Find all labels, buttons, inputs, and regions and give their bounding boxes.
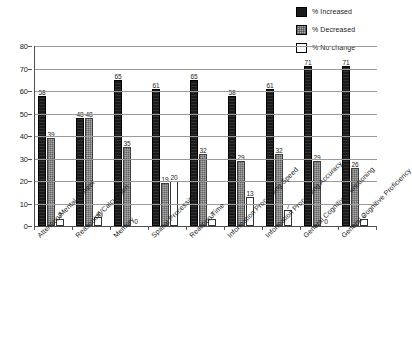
y-axis-tick bbox=[28, 46, 32, 47]
bar-value-label: 48 bbox=[76, 111, 83, 119]
y-axis-tick bbox=[28, 159, 32, 160]
legend-item-increased: % Increased bbox=[296, 4, 386, 19]
x-axis-tick bbox=[34, 226, 35, 230]
legend-swatch-decreased-icon bbox=[296, 25, 307, 35]
bar-increased: 61 bbox=[266, 89, 274, 226]
bar-value-label: 48 bbox=[85, 111, 92, 119]
y-axis-tick-label: 50 bbox=[20, 109, 28, 118]
bar-decreased: 48 bbox=[85, 118, 93, 226]
legend-swatch-increased-icon bbox=[296, 7, 307, 17]
gridline bbox=[35, 46, 377, 47]
bar-value-label: 13 bbox=[246, 190, 253, 198]
x-axis-tick bbox=[376, 226, 377, 230]
x-axis-tick bbox=[148, 226, 149, 230]
y-axis-tick-label: 20 bbox=[20, 177, 28, 186]
bar-decreased: 39 bbox=[47, 138, 55, 226]
y-axis: 01020304050607080 bbox=[0, 46, 32, 226]
y-axis-tick bbox=[28, 226, 32, 227]
gridline bbox=[35, 159, 377, 160]
legend-label-increased: % Increased bbox=[312, 8, 352, 15]
y-axis-tick-label: 30 bbox=[20, 154, 28, 163]
y-axis-tick-label: 60 bbox=[20, 87, 28, 96]
bar-increased: 58 bbox=[228, 96, 236, 227]
x-axis-tick bbox=[262, 226, 263, 230]
x-axis-tick bbox=[300, 226, 301, 230]
bar-increased: 58 bbox=[38, 96, 46, 227]
bar-value-label: 71 bbox=[304, 59, 311, 67]
y-axis-tick-label: 70 bbox=[20, 64, 28, 73]
bar-value-label: 32 bbox=[199, 147, 206, 155]
plot-canvas: 5839348484653506119206532358291361327712… bbox=[34, 46, 377, 227]
bar-value-label: 65 bbox=[114, 73, 121, 81]
bar-value-label: 71 bbox=[342, 59, 349, 67]
bar-value-label: 35 bbox=[123, 140, 130, 148]
x-axis-tick bbox=[72, 226, 73, 230]
y-axis-tick bbox=[28, 69, 32, 70]
bar-value-label: 65 bbox=[190, 73, 197, 81]
x-axis-tick bbox=[110, 226, 111, 230]
bar-value-label: 58 bbox=[228, 89, 235, 97]
bar-value-label: 32 bbox=[275, 147, 282, 155]
bar-increased: 61 bbox=[152, 89, 160, 226]
gridline bbox=[35, 69, 377, 70]
y-axis-tick bbox=[28, 181, 32, 182]
legend-label-decreased: % Decreased bbox=[312, 26, 355, 33]
y-axis-tick bbox=[28, 114, 32, 115]
x-axis-tick bbox=[224, 226, 225, 230]
gridline bbox=[35, 114, 377, 115]
gridline bbox=[35, 204, 377, 205]
y-axis-tick bbox=[28, 136, 32, 137]
bar-value-label: 58 bbox=[38, 89, 45, 97]
y-axis-tick bbox=[28, 204, 32, 205]
x-axis-tick bbox=[186, 226, 187, 230]
bar-value-label: 61 bbox=[152, 82, 159, 90]
bar-value-label: 26 bbox=[351, 161, 358, 169]
y-axis-tick-label: 10 bbox=[20, 199, 28, 208]
x-axis-labels: Attention/Mental ControlReasoning/Calcul… bbox=[0, 232, 386, 346]
y-axis-tick-label: 80 bbox=[20, 42, 28, 51]
bar-increased: 48 bbox=[76, 118, 84, 226]
gridline bbox=[35, 91, 377, 92]
y-axis-tick-label: 40 bbox=[20, 132, 28, 141]
x-axis-tick bbox=[338, 226, 339, 230]
y-axis-tick bbox=[28, 91, 32, 92]
legend-item-decreased: % Decreased bbox=[296, 22, 386, 37]
bar-value-label: 61 bbox=[266, 82, 273, 90]
gridline bbox=[35, 136, 377, 137]
